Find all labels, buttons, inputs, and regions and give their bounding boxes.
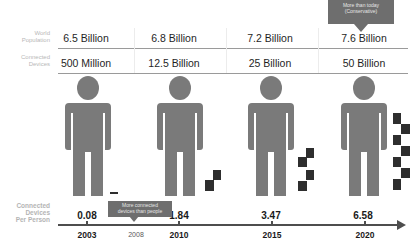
timeline-tick	[364, 221, 366, 226]
year-2003: 2003	[62, 230, 112, 240]
devices-per-person-label: Connected Devices Per Person	[0, 202, 50, 223]
per-person-2003: 0.08	[62, 210, 112, 221]
divider-line	[58, 73, 408, 74]
devices-2003: 500 Million	[42, 57, 130, 69]
person-icon	[247, 76, 295, 198]
timeline-arrow-icon	[397, 220, 406, 230]
timeline-axis	[58, 224, 398, 226]
conservative-callout: More than today (Conservative)	[328, 0, 394, 24]
devices-2015: 25 Billion	[226, 57, 314, 69]
device-block	[401, 124, 410, 134]
year-2015: 2015	[247, 230, 297, 240]
timeline-tick	[178, 221, 180, 226]
timeline-tick	[86, 221, 88, 226]
devices-2020: 50 Billion	[320, 57, 408, 69]
device-block	[298, 181, 307, 191]
per-person-2015: 3.47	[246, 210, 296, 221]
column-divider	[226, 28, 227, 73]
device-block	[205, 180, 214, 191]
device-block	[298, 157, 307, 167]
callout-text-line2: (Conservative)	[328, 8, 394, 14]
label-line: Devices	[0, 209, 50, 216]
divider-line	[58, 48, 408, 49]
per-person-2020: 6.58	[338, 210, 388, 221]
label-line: Connected	[0, 202, 50, 209]
callout-text-line2: devices than people	[108, 208, 172, 214]
device-block	[393, 135, 401, 145]
person-icon	[64, 76, 112, 198]
device-block	[401, 146, 410, 156]
device-block	[110, 192, 118, 194]
population-2015: 7.2 Billion	[226, 32, 314, 44]
population-2003: 6.5 Billion	[42, 32, 130, 44]
device-block	[306, 170, 314, 180]
person-icon	[156, 76, 204, 198]
timeline-tick	[271, 221, 273, 226]
device-block	[306, 148, 314, 158]
device-block	[393, 179, 401, 190]
population-2010: 6.8 Billion	[130, 32, 218, 44]
device-block	[213, 170, 221, 180]
person-icon	[340, 76, 388, 198]
column-divider	[134, 28, 135, 73]
device-block	[393, 157, 401, 167]
year-2010: 2010	[154, 230, 204, 240]
callout-down-arrow-icon	[354, 24, 368, 32]
milestone-callout: More connected devices than people	[108, 201, 172, 217]
devices-2010: 12.5 Billion	[130, 57, 218, 69]
year-2020: 2020	[340, 230, 390, 240]
column-divider	[318, 28, 319, 73]
device-block	[401, 168, 410, 178]
population-2020: 7.6 Billion	[320, 32, 408, 44]
label-line: Per Person	[0, 216, 50, 223]
milestone-down-arrow-icon	[129, 216, 139, 222]
device-block	[393, 113, 401, 124]
